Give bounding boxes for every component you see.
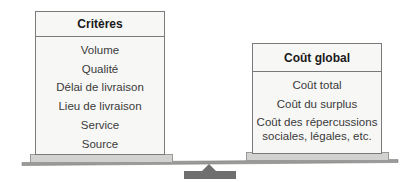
cost-item: Coût du surplus bbox=[253, 95, 381, 114]
criteria-item: Volume bbox=[36, 41, 164, 60]
fulcrum-base bbox=[184, 171, 236, 179]
criteria-item: Délai de livraison bbox=[36, 78, 164, 97]
fulcrum-pivot bbox=[201, 164, 217, 172]
criteria-item: Lieu de livraison bbox=[36, 97, 164, 116]
criteria-panel: Critères Volume Qualité Délai de livrais… bbox=[35, 11, 165, 155]
left-scale-plate bbox=[30, 154, 173, 163]
criteria-item: Source bbox=[36, 135, 164, 154]
global-cost-list: Coût total Coût du surplus Coût des répe… bbox=[253, 72, 381, 143]
criteria-title: Critères bbox=[36, 12, 164, 37]
global-cost-title: Coût global bbox=[253, 44, 381, 72]
criteria-list: Volume Qualité Délai de livraison Lieu d… bbox=[36, 37, 164, 153]
cost-item: Coût des répercussions sociales, légales… bbox=[253, 113, 381, 143]
cost-item: Coût total bbox=[253, 76, 381, 95]
criteria-item: Qualité bbox=[36, 60, 164, 79]
criteria-item: Service bbox=[36, 116, 164, 135]
global-cost-panel: Coût global Coût total Coût du surplus C… bbox=[252, 43, 382, 154]
